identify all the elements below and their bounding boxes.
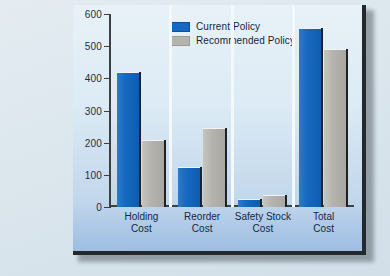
bar-current-policy-3 (238, 199, 262, 207)
bar-highlight (324, 49, 346, 50)
y-tick-200 (104, 143, 111, 144)
bar-group-2 (172, 14, 233, 207)
category-label-line: Holding (111, 211, 172, 223)
category-label-3: Safety StockCost (233, 209, 294, 243)
y-tick-label-400: 400 (85, 73, 102, 84)
category-label-line: Cost (293, 223, 354, 235)
chart-panel: Current Policy Recommended Policy 010020… (73, 5, 366, 255)
bar-highlight (263, 195, 285, 196)
y-tick-500 (104, 46, 111, 47)
bar-groups (111, 14, 354, 207)
bar-highlight (299, 28, 321, 29)
bar-recommended-policy-1 (142, 140, 166, 207)
category-label-line: Cost (233, 223, 294, 235)
bar-highlight (117, 72, 139, 73)
y-tick-0 (104, 207, 111, 208)
y-tick-label-200: 200 (85, 137, 102, 148)
plot-area: 0100200300400500600 (109, 14, 354, 207)
category-label-1: HoldingCost (111, 209, 172, 243)
category-label-line: Cost (111, 223, 172, 235)
bar-group-1 (111, 14, 172, 207)
y-tick-400 (104, 78, 111, 79)
bar-recommended-policy-3 (263, 195, 287, 207)
y-tick-label-100: 100 (85, 169, 102, 180)
bar-highlight (178, 167, 200, 168)
y-tick-label-0: 0 (96, 202, 102, 213)
y-tick-600 (104, 14, 111, 15)
bar-group-4 (293, 14, 354, 207)
category-label-line: Reorder (172, 211, 233, 223)
bar-highlight (142, 140, 164, 141)
bar-recommended-policy-4 (324, 49, 348, 207)
bar-highlight (238, 199, 260, 200)
bar-highlight (203, 128, 225, 129)
y-tick-100 (104, 175, 111, 176)
category-labels: HoldingCostReorderCostSafety StockCostTo… (111, 209, 354, 243)
bar-recommended-policy-2 (203, 128, 227, 207)
chart-screenshot: Current Policy Recommended Policy 010020… (0, 0, 390, 276)
category-label-line: Cost (172, 223, 233, 235)
category-label-2: ReorderCost (172, 209, 233, 243)
category-label-4: TotalCost (293, 209, 354, 243)
bar-group-3 (233, 14, 294, 207)
y-tick-label-500: 500 (85, 41, 102, 52)
bar-current-policy-2 (178, 167, 202, 207)
bar-current-policy-1 (117, 72, 141, 207)
y-tick-300 (104, 111, 111, 112)
y-tick-label-600: 600 (85, 9, 102, 20)
category-label-line: Total (293, 211, 354, 223)
y-tick-label-300: 300 (85, 105, 102, 116)
bar-current-policy-4 (299, 28, 323, 207)
category-label-line: Safety Stock (233, 211, 294, 223)
